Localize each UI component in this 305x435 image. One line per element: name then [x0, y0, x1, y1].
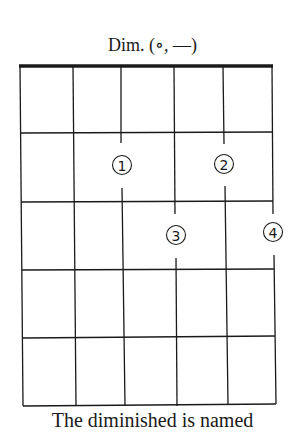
svg-text:3: 3	[172, 228, 181, 244]
fret-line	[22, 336, 275, 338]
string-line-6	[274, 255, 276, 404]
svg-text:2: 2	[220, 157, 229, 173]
finger-3-marker: 3	[167, 226, 186, 245]
string-line-4	[176, 258, 177, 406]
string-line-6	[272, 66, 273, 214]
fret-line	[20, 132, 273, 133]
fretboard-grid	[19, 66, 276, 406]
fret-line	[23, 404, 276, 406]
string-line-4	[174, 66, 175, 214]
string-line-3	[122, 188, 125, 406]
string-line-5	[225, 186, 228, 404]
finger-1-marker: 1	[113, 156, 132, 175]
chord-diagram: 1 2 3 4	[0, 0, 305, 435]
svg-text:4: 4	[269, 225, 278, 241]
finger-2-marker: 2	[215, 155, 234, 174]
fret-line	[22, 269, 274, 270]
string-line-1	[20, 66, 23, 406]
caption-text: The diminished is named	[0, 409, 305, 432]
svg-text:1: 1	[118, 158, 127, 174]
string-line-2	[73, 66, 76, 406]
finger-markers: 1 2 3 4	[113, 155, 283, 245]
finger-4-marker: 4	[264, 223, 283, 242]
fret-line	[21, 201, 273, 202]
